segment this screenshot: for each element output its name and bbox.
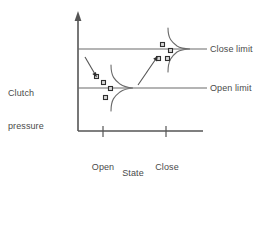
open-limit-label: Open limit: [210, 83, 252, 94]
data-point-marker: [169, 49, 173, 53]
y-axis-label-line1: Clutch: [8, 88, 66, 99]
x-tick-label-close-actuation: Close actuation: [136, 140, 198, 187]
data-point-marker: [161, 43, 165, 47]
y-axis-label: Clutch pressure: [8, 66, 66, 143]
data-point-marker: [104, 96, 108, 100]
data-point-marker: [166, 57, 170, 61]
x-tick-label-open-release: Open release: [78, 140, 128, 187]
data-point-marker: [109, 87, 113, 91]
close-limit-label: Close limit: [210, 44, 253, 55]
y-axis-label-line2: pressure: [8, 121, 66, 132]
x-axis-label: State: [108, 168, 158, 179]
data-point-marker: [102, 81, 106, 85]
